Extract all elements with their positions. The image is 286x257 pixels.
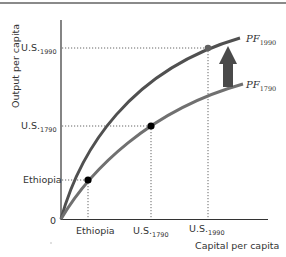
guide-lines [62, 48, 208, 219]
x-tick-us1790: U.S.1790 [133, 225, 169, 239]
label-pf1990: PF1990 [245, 33, 276, 47]
origin-label: 0 [50, 215, 56, 226]
y-tick-ethiopia: Ethiopia [23, 174, 62, 185]
x-tick-ethiopia: Ethiopia [76, 225, 115, 236]
stray-mark [50, 242, 51, 243]
x-axis-label: Capital per capita [195, 240, 279, 251]
y-axis-label: Output per capita [10, 24, 21, 108]
x-tick-us1990: U.S.1990 [189, 223, 225, 237]
point-us1790 [147, 122, 154, 129]
y-tick-us1790: U.S.1790 [21, 120, 57, 134]
shift-up-arrow-icon [219, 46, 237, 87]
point-ethiopia [84, 176, 91, 183]
y-tick-us1990: U.S.1990 [21, 42, 57, 56]
point-us1990 [205, 45, 212, 52]
production-function-chart: Output per capita U.S.1990 U.S.1790 Ethi… [0, 0, 286, 257]
label-pf1790: PF1790 [245, 79, 276, 93]
